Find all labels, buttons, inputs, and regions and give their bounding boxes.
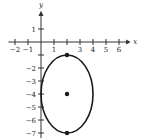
- x-axis-arrow-icon: [126, 40, 131, 45]
- y-tick-label: −6: [26, 117, 37, 125]
- x-tick-label: 6: [117, 46, 122, 54]
- y-tick-label: −4: [26, 91, 37, 99]
- x-tick-label: 3: [78, 46, 82, 54]
- vertex-point: [65, 53, 69, 57]
- y-tick-label: −7: [26, 130, 36, 138]
- x-tick-label: 4: [91, 46, 96, 54]
- x-axis-label: x: [133, 38, 137, 46]
- y-tick-label: −5: [26, 104, 36, 112]
- x-tick-label: 1: [52, 46, 56, 54]
- x-tick-label: −1: [23, 46, 33, 54]
- vertex-point: [65, 131, 69, 135]
- center-point: [65, 92, 69, 96]
- y-axis-label: y: [38, 1, 44, 9]
- x-tick-label: 5: [104, 46, 108, 54]
- y-tick-label: −2: [26, 65, 36, 73]
- ellipse-plot: xy−2−1134561−2−3−4−5−6−7: [0, 0, 146, 138]
- y-tick-label: 1: [32, 26, 36, 34]
- x-tick-label: −2: [10, 46, 20, 54]
- y-axis-arrow-icon: [39, 11, 44, 16]
- y-tick-label: −3: [26, 78, 36, 86]
